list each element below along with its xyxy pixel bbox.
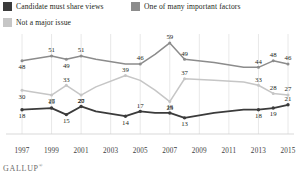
data-point-marker: [79, 105, 82, 108]
data-point-marker: [272, 92, 275, 95]
data-point-marker: [257, 108, 260, 111]
data-point-marker: [124, 115, 127, 118]
registered-mark: ®: [39, 163, 44, 168]
gallup-brand-text: GALLUP: [3, 164, 39, 173]
data-point-marker: [65, 84, 68, 87]
data-point-marker: [21, 89, 24, 92]
series-2: [21, 74, 290, 103]
data-point-marker: [20, 108, 23, 111]
x-tick-label: 1997: [14, 146, 29, 156]
data-value-label: 49: [181, 50, 188, 57]
gallup-attribution: GALLUP®: [3, 163, 43, 173]
legend-label: Candidate must share views: [16, 2, 104, 11]
data-value-label: 48: [19, 63, 26, 70]
data-value-label: 27: [78, 97, 85, 104]
data-point-marker: [50, 94, 53, 97]
data-value-label: 23: [166, 104, 173, 111]
data-point-marker: [139, 110, 142, 113]
data-value-label: 14: [122, 119, 129, 126]
data-value-label: 21: [285, 95, 292, 102]
series-line: [22, 43, 288, 67]
x-tick-label: 2001: [74, 146, 89, 156]
data-value-label: 27: [285, 85, 292, 92]
data-point-marker: [124, 74, 127, 77]
x-tick-label: 2011: [221, 146, 236, 156]
data-value-label: 30: [19, 93, 26, 100]
x-tick-label: 1999: [44, 146, 59, 156]
series-1-value-labels: 48514951465949444846: [19, 34, 292, 70]
data-value-label: 37: [181, 69, 188, 76]
data-point-marker: [272, 106, 275, 109]
gallup-line-chart: Candidate must share viewsOne of many im…: [0, 0, 298, 180]
series-2-value-labels: 30273327392337332827: [19, 66, 292, 111]
legend-item-0: Candidate must share views: [3, 2, 104, 11]
data-value-label: 18: [255, 112, 262, 119]
data-point-marker: [257, 66, 260, 69]
data-value-label: 51: [48, 46, 55, 53]
data-point-marker: [287, 63, 290, 66]
data-point-marker: [50, 54, 53, 57]
data-value-label: 46: [285, 54, 292, 61]
x-tick-label: 2005: [133, 146, 148, 156]
data-value-label: 49: [63, 62, 70, 69]
x-tick-label: 2007: [162, 146, 177, 156]
chart-plot-area: 1819152014171613181921485149514659494448…: [0, 34, 298, 146]
data-point-marker: [65, 58, 68, 61]
data-value-label: 13: [181, 120, 188, 127]
data-value-label: 17: [137, 102, 144, 109]
legend-item-1: One of many important factors: [131, 2, 241, 11]
data-point-marker: [286, 103, 289, 106]
data-value-label: 19: [270, 110, 277, 117]
series-0: [20, 103, 289, 119]
x-tick-label: 2009: [192, 146, 207, 156]
data-value-label: 39: [122, 66, 129, 73]
data-value-label: 46: [137, 54, 144, 61]
chart-legend: Candidate must share viewsOne of many im…: [0, 0, 298, 34]
legend-swatch-icon: [131, 2, 140, 11]
chart-svg: 1819152014171613181921485149514659494448…: [0, 34, 298, 146]
data-value-label: 44: [255, 58, 262, 65]
data-point-marker: [183, 116, 186, 119]
data-value-label: 51: [78, 46, 85, 53]
x-axis-tick-labels: 1997199920012003200520072009201120132015: [0, 146, 298, 160]
legend-swatch-icon: [3, 18, 12, 27]
data-point-marker: [257, 84, 260, 87]
data-value-label: 18: [19, 112, 26, 119]
data-point-marker: [80, 54, 83, 57]
series-1: [21, 41, 290, 68]
series-line: [22, 75, 288, 101]
data-value-label: 48: [270, 51, 277, 58]
data-point-marker: [272, 59, 275, 62]
data-value-label: 59: [166, 34, 173, 40]
legend-swatch-icon: [3, 2, 12, 11]
data-value-label: 27: [48, 97, 55, 104]
data-point-marker: [183, 58, 186, 61]
x-tick-label: 2003: [103, 146, 118, 156]
x-tick-label: 2015: [280, 146, 295, 156]
data-value-label: 28: [270, 84, 277, 91]
data-point-marker: [183, 77, 186, 80]
data-point-marker: [168, 111, 171, 114]
data-point-marker: [168, 41, 171, 44]
data-point-marker: [139, 63, 142, 66]
data-point-marker: [50, 106, 53, 109]
legend-label: One of many important factors: [144, 2, 241, 11]
legend-label: Not a major issue: [16, 18, 71, 27]
series-line: [22, 105, 288, 118]
gridlines: [22, 34, 288, 134]
legend-item-2: Not a major issue: [3, 18, 71, 27]
data-value-label: 33: [255, 76, 262, 83]
data-value-label: 15: [63, 117, 70, 124]
data-value-label: 33: [63, 76, 70, 83]
data-point-marker: [21, 59, 24, 62]
data-point-marker: [65, 113, 68, 116]
x-tick-label: 2013: [251, 146, 266, 156]
